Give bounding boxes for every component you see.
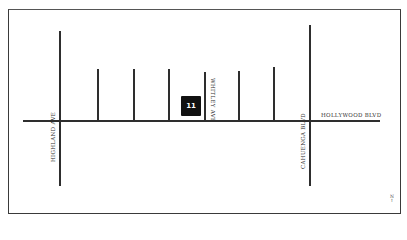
- road-highland-ave: [59, 31, 61, 186]
- label-hollywood-blvd: HOLLYWOOD BLVD: [321, 112, 381, 118]
- label-whitley-ave: WHITLEY AVE: [210, 78, 216, 122]
- road-side-street-3: [168, 69, 170, 121]
- road-hollywood-blvd: [23, 120, 380, 122]
- marker-label: 11: [186, 102, 196, 110]
- location-marker-icon[interactable]: 11: [181, 96, 201, 116]
- label-highland-ave: HIGHLAND AVE: [50, 112, 56, 162]
- north-arrow-icon: N ↑: [389, 195, 395, 203]
- road-cahuenga-blvd: [309, 25, 311, 186]
- road-side-street-5: [238, 71, 240, 121]
- road-side-street-6: [273, 67, 275, 121]
- label-cahuenga-blvd: CAHUENGA BLVD: [300, 113, 306, 169]
- road-whitley-ave: [204, 72, 206, 121]
- road-side-street-2: [133, 69, 135, 121]
- road-side-street-1: [97, 69, 99, 121]
- north-arrow: ↑: [389, 199, 395, 203]
